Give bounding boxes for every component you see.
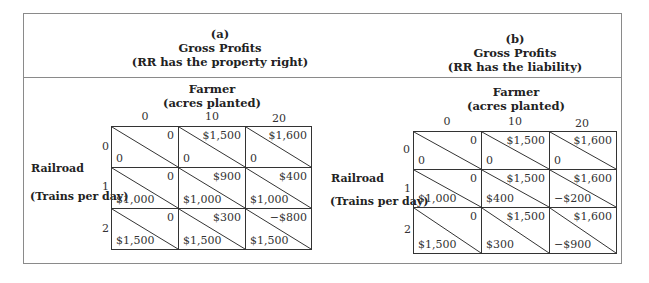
railroad-payoff: 0 (116, 152, 123, 165)
farmer-payoff: 0 (167, 129, 174, 142)
panel-a-label: (a) (120, 27, 320, 41)
panel-b-heading: (b) Gross Profits (RR has the liability) (415, 32, 615, 74)
railroad-payoff: $1,000 (116, 193, 155, 206)
railroad-payoff: 0 (418, 154, 425, 167)
panel-b-subtitle: (RR has the liability) (415, 60, 615, 74)
railroad-payoff: 0 (250, 152, 257, 165)
payoff-cell: $300$1,500 (179, 209, 246, 249)
acres-planted-label: (acres planted) (112, 96, 312, 110)
farmer-payoff: $1,500 (507, 210, 546, 223)
header-divider (23, 77, 622, 78)
panel-a-row-0: 0 (102, 140, 109, 153)
payoff-cell: $1,6000 (246, 127, 311, 168)
payoff-cell: $1,600−$900 (550, 208, 616, 253)
panel-a-column-player: Farmer (acres planted) (112, 82, 312, 110)
panel-a-row-player: Railroad (31, 162, 84, 175)
railroad-payoff: −$900 (554, 238, 591, 251)
panel-a-heading: (a) Gross Profits (RR has the property r… (120, 27, 320, 69)
railroad-payoff: 0 (486, 154, 493, 167)
farmer-payoff: 0 (470, 134, 477, 147)
payoff-cell: $1,5000 (179, 127, 246, 168)
panel-b-title: Gross Profits (415, 46, 615, 60)
farmer-payoff: $1,500 (507, 172, 546, 185)
farmer-payoff: $1,500 (507, 134, 546, 147)
payoff-cell: $400$1,000 (246, 168, 311, 209)
farmer-payoff: 0 (470, 172, 477, 185)
panel-a-title: Gross Profits (120, 41, 320, 55)
payoff-cell: $1,600−$200 (550, 170, 616, 208)
farmer-payoff: $1,600 (574, 134, 613, 147)
panel-a-payoff-matrix: 00$1,5000$1,60000$1,000$900$1,000$400$1,… (111, 126, 312, 250)
panel-b-payoff-matrix: 00$1,5000$1,60000$1,000$1,500$400$1,600−… (413, 131, 617, 254)
railroad-payoff: $300 (486, 238, 514, 251)
farmer-label: Farmer (415, 85, 617, 99)
railroad-payoff: $1,500 (418, 238, 457, 251)
panel-b-col-0: 0 (437, 115, 457, 128)
payoff-cell: 00 (112, 127, 179, 168)
panel-a-subtitle: (RR has the property right) (120, 55, 320, 69)
farmer-payoff: $1,500 (203, 129, 242, 142)
panel-b-column-player: Farmer (acres planted) (415, 85, 617, 113)
payoff-cell: 00 (414, 132, 482, 170)
farmer-payoff: 0 (167, 170, 174, 183)
railroad-payoff: $400 (486, 192, 514, 205)
railroad-payoff: $1,000 (183, 193, 222, 206)
panel-b-row-1: 1 (404, 182, 411, 195)
railroad-payoff: $1,000 (250, 193, 289, 206)
payoff-cell: $900$1,000 (179, 168, 246, 209)
payoff-cell: −$800$1,500 (246, 209, 311, 249)
panel-a-row-2: 2 (102, 222, 109, 235)
panel-b-col-20: 20 (572, 117, 592, 130)
farmer-payoff: $400 (279, 170, 307, 183)
panel-a-col-10: 10 (202, 110, 222, 123)
payoff-cell: $1,6000 (550, 132, 616, 170)
farmer-payoff: $1,600 (574, 210, 613, 223)
panel-b-col-10: 10 (505, 115, 525, 128)
railroad-payoff: −$200 (554, 192, 591, 205)
railroad-payoff: $1,500 (250, 234, 289, 247)
railroad-payoff: $1,000 (418, 192, 457, 205)
panel-b-row-2: 2 (404, 223, 411, 236)
panel-b-label: (b) (415, 32, 615, 46)
payoff-cell: $1,500$300 (482, 208, 550, 253)
payoff-cell: $1,500$400 (482, 170, 550, 208)
farmer-payoff: $1,600 (269, 129, 308, 142)
farmer-payoff: $900 (213, 170, 241, 183)
panel-a-col-0: 0 (135, 110, 155, 123)
payoff-cell: 0$1,500 (112, 209, 179, 249)
payoff-cell: 0$1,000 (112, 168, 179, 209)
railroad-payoff: $1,500 (183, 234, 222, 247)
payoff-cell: 0$1,500 (414, 208, 482, 253)
railroad-payoff: $1,500 (116, 234, 155, 247)
payoff-cell: $1,5000 (482, 132, 550, 170)
panel-b-row-0: 0 (403, 143, 410, 156)
farmer-payoff: $300 (213, 211, 241, 224)
acres-planted-label: (acres planted) (415, 99, 617, 113)
railroad-payoff: 0 (183, 152, 190, 165)
farmer-payoff: $1,600 (574, 172, 613, 185)
farmer-payoff: 0 (470, 210, 477, 223)
payoff-cell: 0$1,000 (414, 170, 482, 208)
farmer-label: Farmer (112, 82, 312, 96)
farmer-payoff: −$800 (270, 211, 307, 224)
panel-a-col-20: 20 (269, 112, 289, 125)
farmer-payoff: 0 (167, 211, 174, 224)
panel-b-row-player: Railroad (331, 172, 384, 185)
railroad-payoff: 0 (554, 154, 561, 167)
